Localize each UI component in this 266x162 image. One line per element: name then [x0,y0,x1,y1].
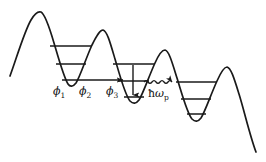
potential-diagram-svg [0,0,266,162]
label-phi2-sub: 2 [87,91,92,100]
label-phi3-sub: 3 [114,91,119,100]
label-omega: ω [155,87,164,100]
label-phi3-base: ϕ [106,85,114,98]
label-phi1-base: ϕ [53,85,61,98]
label-phi1: ϕ1 [53,86,65,100]
label-phi3: ϕ3 [106,86,118,100]
label-omega-sub: p [164,93,169,102]
label-hbar-omega-p: ħωp [148,88,169,102]
label-phi2: ϕ2 [79,86,91,100]
label-phi1-sub: 1 [61,91,66,100]
label-phi2-base: ϕ [79,85,87,98]
washboard-potential-figure: ϕ1 ϕ2 ϕ3 ħωp [0,0,266,162]
